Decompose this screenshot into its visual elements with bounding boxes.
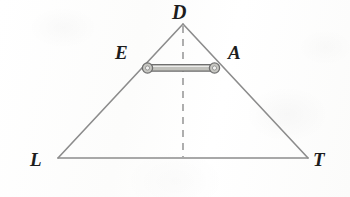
vertex-label-d: D <box>172 2 186 22</box>
segment-bar-ea <box>142 63 219 73</box>
vertex-label-t: T <box>313 150 325 169</box>
triangle-side-dt <box>183 24 308 158</box>
segment-endpoint-e-inner <box>145 66 149 70</box>
vertex-label-e: E <box>115 43 128 62</box>
segment-bar-body <box>149 65 213 72</box>
segment-endpoint-a-inner <box>212 66 216 70</box>
geometry-figure: D E A L T <box>0 0 350 197</box>
figure-canvas <box>0 0 350 197</box>
vertex-label-a: A <box>228 43 241 62</box>
vertex-label-l: L <box>30 150 42 169</box>
